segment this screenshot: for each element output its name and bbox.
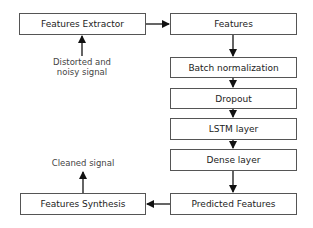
node-features: Features	[170, 13, 297, 35]
flow-diagram: Features Extractor Features Batch normal…	[0, 0, 313, 228]
node-label: LSTM layer	[209, 124, 258, 134]
node-label: Dense layer	[207, 155, 261, 165]
node-label: Features	[214, 19, 253, 29]
node-features-extractor: Features Extractor	[19, 13, 146, 35]
node-label: Dropout	[215, 94, 251, 104]
input-signal-line1: Distorted and	[32, 57, 132, 67]
node-dense-layer: Dense layer	[170, 149, 297, 171]
input-signal-line2: noisy signal	[32, 67, 132, 77]
input-signal-label: Distorted and noisy signal	[32, 57, 132, 77]
node-batch-normalization: Batch normalization	[170, 57, 297, 78]
node-lstm-layer: LSTM layer	[170, 118, 297, 140]
node-features-synthesis: Features Synthesis	[20, 193, 146, 215]
node-label: Predicted Features	[192, 199, 276, 209]
node-label: Features Synthesis	[41, 199, 126, 209]
output-signal-label: Cleaned signal	[33, 158, 133, 168]
node-predicted-features: Predicted Features	[170, 193, 297, 215]
node-label: Features Extractor	[41, 19, 124, 29]
node-dropout: Dropout	[170, 88, 297, 109]
node-label: Batch normalization	[188, 63, 278, 73]
